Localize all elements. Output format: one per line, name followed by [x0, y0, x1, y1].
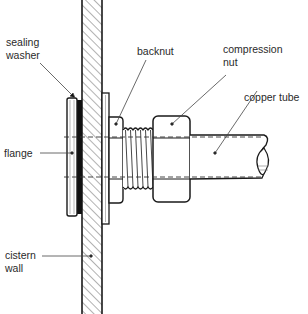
label-backnut: backnut: [137, 45, 174, 58]
label-sealing-washer: sealing washer: [6, 36, 40, 62]
flange: [67, 98, 77, 216]
backnut: [109, 117, 123, 203]
label-flange: flange: [4, 147, 33, 160]
label-cistern-wall: cistern wall: [5, 249, 36, 275]
label-compression-nut: compression nut: [223, 43, 283, 69]
tank-connector-diagram: sealing washer flange cistern wall backn…: [0, 0, 308, 314]
label-copper-tube: copper tube: [244, 91, 299, 104]
backnut-plate: [102, 93, 109, 224]
compression-nut: [153, 116, 190, 202]
copper-tube: [190, 135, 269, 179]
cistern-wall: [82, 0, 102, 314]
